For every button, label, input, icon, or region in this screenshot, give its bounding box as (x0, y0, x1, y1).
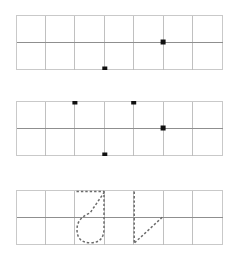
grid-band-one-svg (16, 15, 223, 70)
grid-band-three (16, 190, 223, 245)
grid-lines-band-two (17, 102, 223, 156)
dot-mid-col6 (161, 40, 166, 45)
grid-lines-band-three (17, 191, 223, 245)
grid-band-two (16, 101, 223, 156)
grid-lines-band-one (17, 16, 223, 70)
dot-top-col3 (72, 101, 77, 105)
guide-letter-v-diagonal (135, 217, 164, 243)
dot-bottom-col4 (102, 153, 107, 157)
worksheet-page (0, 0, 238, 271)
dot-bottom-col4 (102, 67, 107, 71)
dot-top-col5 (131, 101, 136, 105)
grid-band-one (16, 15, 223, 70)
dot-mid-col6 (161, 126, 166, 131)
grid-band-two-svg (16, 101, 223, 156)
grid-band-three-svg (16, 190, 223, 245)
